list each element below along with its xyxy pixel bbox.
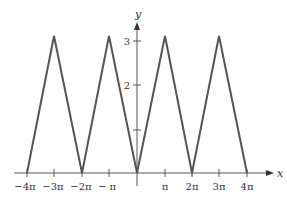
x-tick-label: π bbox=[162, 181, 169, 192]
x-tick-label: 4π bbox=[241, 181, 254, 192]
x-axis-arrow-icon bbox=[266, 170, 274, 176]
y-tick-label-2: 2 bbox=[124, 80, 130, 91]
x-tick-label: −4π bbox=[14, 181, 36, 192]
x-tick-labels: −4π −3π −2π − π π 2π 3π 4π bbox=[14, 181, 254, 192]
x-tick-label: 2π bbox=[186, 181, 199, 192]
x-tick-label: −2π bbox=[70, 181, 92, 192]
x-axis-label: x bbox=[277, 167, 284, 180]
x-tick-label: −3π bbox=[42, 181, 64, 192]
y-axis-label: y bbox=[134, 8, 142, 21]
y-axis-arrow-icon bbox=[134, 22, 140, 30]
y-tick-label-3: 3 bbox=[124, 36, 130, 47]
x-tick-label: − π bbox=[98, 181, 117, 192]
x-tick-label: 3π bbox=[213, 181, 226, 192]
chart: x y −4π −3π −2π − π π 2π 3π 4π 2 3 bbox=[0, 0, 287, 201]
